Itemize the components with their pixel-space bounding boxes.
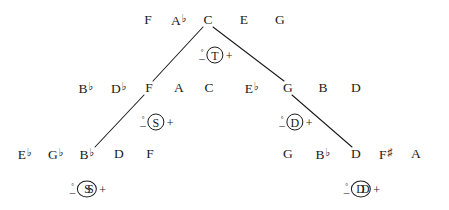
- note-label: F: [146, 147, 154, 161]
- note-label: D: [351, 81, 361, 95]
- note-label: D♭: [111, 81, 127, 96]
- flat-icon: ♭: [122, 80, 127, 92]
- note-letter: C: [204, 80, 213, 95]
- note-label: E: [240, 13, 248, 27]
- note-letter: G: [275, 12, 285, 27]
- note-label: C: [204, 81, 213, 95]
- diminished-minor-prefix: °–: [279, 117, 285, 128]
- plus-icon: +: [99, 183, 106, 195]
- fn-tonic: °–T+: [199, 47, 232, 64]
- note-letter: B: [79, 147, 88, 162]
- minus-icon: –: [344, 188, 350, 194]
- note-letter: E: [18, 147, 26, 162]
- circled-function-symbol: D: [286, 114, 303, 131]
- note-letter: C: [203, 12, 212, 27]
- note-letter: A: [411, 146, 421, 161]
- note-label: B♭: [315, 147, 330, 162]
- note-label: F♯: [379, 147, 393, 162]
- flat-icon: ♭: [59, 146, 64, 158]
- flat-icon: ♭: [27, 146, 32, 158]
- minus-icon: –: [199, 54, 205, 60]
- circled-function-symbol: SS: [77, 181, 97, 198]
- note-label: E♭: [18, 147, 32, 162]
- minus-icon: –: [70, 188, 76, 194]
- flat-icon: ♭: [254, 80, 259, 92]
- note-label: A♭: [171, 13, 187, 28]
- circled-function-symbol: S: [147, 114, 164, 131]
- diminished-minor-prefix: °–: [344, 184, 350, 195]
- minus-icon: –: [140, 121, 146, 127]
- note-label: G: [283, 147, 293, 161]
- diminished-minor-prefix: °–: [199, 50, 205, 61]
- note-letter: B: [318, 80, 327, 95]
- note-letter: E: [245, 81, 253, 96]
- note-letter: F: [144, 12, 152, 27]
- note-letter: G: [48, 147, 58, 162]
- note-letter: E: [240, 12, 248, 27]
- edge-tonic-to-subdominant: edge-tonic-to-subdominant: [153, 27, 203, 81]
- note-label: D: [351, 147, 361, 161]
- tonal-function-diagram: edge-tonic-to-subdominantedge-tonic-to-d…: [0, 0, 449, 210]
- plus-icon: +: [167, 116, 174, 128]
- circled-function-symbol: T: [206, 47, 223, 64]
- note-letter: F: [145, 80, 153, 95]
- note-letter: A: [174, 80, 184, 95]
- sharp-icon: ♯: [387, 146, 393, 158]
- note-letter: F: [146, 146, 154, 161]
- plus-icon: +: [373, 183, 380, 195]
- flat-icon: ♭: [89, 146, 94, 158]
- note-letter: D: [111, 81, 121, 96]
- note-label: F: [145, 81, 153, 95]
- fn-subdominant: °–S+: [140, 114, 173, 131]
- note-label: B: [318, 81, 327, 95]
- note-letter: D: [114, 146, 124, 161]
- edge-sub-to-subsub: edge-sub-to-subsub: [95, 95, 144, 147]
- circled-function-symbol: DD: [351, 181, 371, 198]
- flat-icon: ♭: [182, 12, 187, 24]
- note-label: G♭: [48, 147, 64, 162]
- note-label: D: [114, 147, 124, 161]
- note-letter: D: [351, 146, 361, 161]
- note-label: B♭: [79, 147, 94, 162]
- note-label: G: [283, 81, 293, 95]
- note-letter: B: [315, 147, 324, 162]
- note-label: B♭: [78, 81, 93, 96]
- minus-icon: –: [279, 121, 285, 127]
- note-letter: G: [283, 80, 293, 95]
- flat-icon: ♭: [325, 146, 330, 158]
- fn-dominant: °–D+: [279, 114, 312, 131]
- fn-dom-dom: °–DD+: [344, 181, 380, 198]
- note-letter: A: [171, 13, 181, 28]
- note-letter: B: [78, 81, 87, 96]
- note-letter: F: [379, 147, 387, 162]
- note-letter: G: [283, 146, 293, 161]
- plus-icon: +: [226, 49, 233, 61]
- diminished-minor-prefix: °–: [70, 184, 76, 195]
- note-label: F: [144, 13, 152, 27]
- diminished-minor-prefix: °–: [140, 117, 146, 128]
- edge-layer: edge-tonic-to-subdominantedge-tonic-to-d…: [0, 0, 449, 210]
- note-letter: D: [351, 80, 361, 95]
- note-label: A: [411, 147, 421, 161]
- flat-icon: ♭: [88, 80, 93, 92]
- plus-icon: +: [306, 116, 313, 128]
- fn-sub-subdom: °–SS+: [70, 181, 106, 198]
- note-label: E♭: [245, 81, 259, 96]
- note-label: G: [275, 13, 285, 27]
- note-label: C: [203, 13, 212, 27]
- note-label: A: [174, 81, 184, 95]
